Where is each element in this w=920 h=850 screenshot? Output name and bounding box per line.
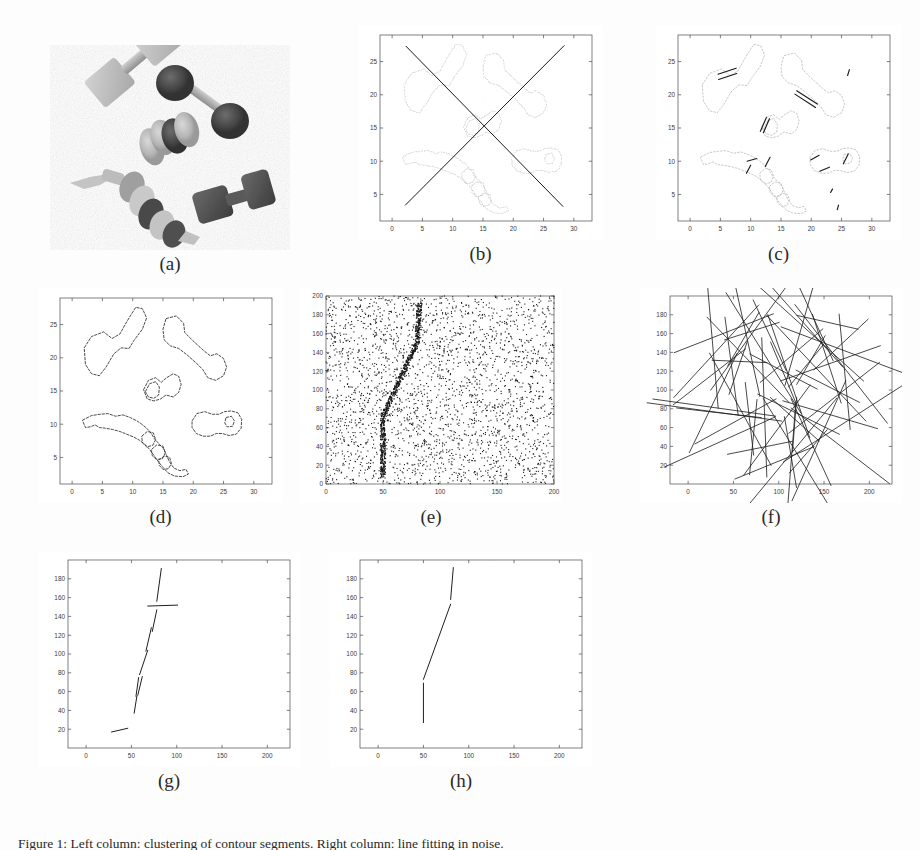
- svg-text:0: 0: [319, 480, 323, 487]
- svg-text:20: 20: [316, 462, 324, 469]
- svg-text:100: 100: [435, 488, 446, 495]
- svg-text:50: 50: [420, 752, 428, 759]
- svg-text:100: 100: [171, 752, 182, 759]
- sublabel-g: (g): [38, 770, 300, 792]
- svg-text:150: 150: [509, 752, 520, 759]
- sublabel-c: (c): [656, 243, 901, 265]
- panel-e-axes: 050100150200020406080100120140160180200: [300, 288, 562, 503]
- svg-text:180: 180: [346, 575, 357, 582]
- svg-text:0: 0: [376, 752, 380, 759]
- svg-text:15: 15: [668, 124, 676, 131]
- svg-text:100: 100: [54, 650, 65, 657]
- svg-text:200: 200: [864, 488, 875, 495]
- panel-c-axes: 051015202530510152025: [656, 25, 901, 240]
- svg-text:100: 100: [463, 752, 474, 759]
- svg-text:120: 120: [54, 632, 65, 639]
- panel-h-axes: 05010015020020406080100120140160180: [330, 552, 592, 767]
- panel-h: Iteration 19, after split & EM 050100150…: [330, 552, 592, 767]
- svg-text:30: 30: [868, 225, 876, 232]
- svg-text:60: 60: [350, 688, 358, 695]
- svg-text:10: 10: [50, 421, 58, 428]
- panel-a-image: [50, 45, 290, 250]
- svg-text:140: 140: [54, 613, 65, 620]
- sublabel-e: (e): [300, 506, 562, 528]
- svg-text:15: 15: [777, 225, 785, 232]
- svg-text:25: 25: [540, 225, 548, 232]
- panel-a: (a): [50, 45, 290, 250]
- sublabel-h: (h): [330, 770, 592, 792]
- panel-d-plot: 051015202530510152025: [38, 288, 283, 503]
- panel-c: Iteration 2, after (merge) & EM 05101520…: [656, 25, 901, 240]
- svg-text:160: 160: [312, 330, 323, 337]
- svg-text:150: 150: [217, 752, 228, 759]
- panel-b-plot: 051015202530510152025: [358, 25, 603, 240]
- figure-caption: Figure 1: Left column: clustering of con…: [18, 836, 908, 850]
- panel-e: 050100150200020406080100120140160180200 …: [300, 288, 562, 503]
- sublabel-f: (f): [640, 506, 902, 528]
- svg-text:15: 15: [50, 387, 58, 394]
- svg-text:0: 0: [688, 225, 692, 232]
- svg-text:200: 200: [262, 752, 273, 759]
- svg-text:25: 25: [50, 321, 58, 328]
- panel-d-axes: 051015202530510152025: [38, 288, 283, 503]
- svg-text:120: 120: [656, 368, 667, 375]
- svg-text:15: 15: [370, 124, 378, 131]
- svg-text:140: 140: [346, 613, 357, 620]
- svg-text:15: 15: [159, 488, 167, 495]
- svg-text:80: 80: [350, 669, 358, 676]
- svg-text:0: 0: [390, 225, 394, 232]
- svg-text:25: 25: [668, 58, 676, 65]
- svg-text:5: 5: [373, 191, 377, 198]
- svg-text:20: 20: [660, 462, 668, 469]
- svg-text:80: 80: [58, 669, 66, 676]
- svg-text:100: 100: [656, 386, 667, 393]
- svg-text:160: 160: [54, 594, 65, 601]
- svg-text:100: 100: [346, 650, 357, 657]
- svg-text:10: 10: [668, 158, 676, 165]
- svg-text:180: 180: [656, 311, 667, 318]
- panel-g-plot: 05010015020020406080100120140160180: [38, 552, 300, 767]
- svg-text:140: 140: [312, 349, 323, 356]
- sublabel-b: (b): [358, 243, 603, 265]
- panel-f-axes: 05010015020020406080100120140160180: [640, 288, 902, 503]
- svg-text:0: 0: [324, 488, 328, 495]
- svg-text:5: 5: [101, 488, 105, 495]
- panel-c-plot: 051015202530510152025: [656, 25, 901, 240]
- svg-text:60: 60: [316, 424, 324, 431]
- panel-b: Iteration 1, after (merge) & EM 05101520…: [358, 25, 603, 240]
- svg-text:160: 160: [656, 330, 667, 337]
- sublabel-d: (d): [38, 506, 283, 528]
- svg-text:10: 10: [370, 158, 378, 165]
- panel-b-axes: 051015202530510152025: [358, 25, 603, 240]
- svg-text:60: 60: [660, 424, 668, 431]
- panel-e-plot: 050100150200020406080100120140160180200: [300, 288, 562, 503]
- svg-text:180: 180: [54, 575, 65, 582]
- svg-text:15: 15: [479, 225, 487, 232]
- panel-g-axes: 05010015020020406080100120140160180: [38, 552, 300, 767]
- svg-text:160: 160: [346, 594, 357, 601]
- svg-text:20: 20: [370, 91, 378, 98]
- svg-text:100: 100: [773, 488, 784, 495]
- panel-f-plot: 05010015020020406080100120140160180: [640, 288, 902, 503]
- svg-text:50: 50: [730, 488, 738, 495]
- svg-text:30: 30: [570, 225, 578, 232]
- svg-text:120: 120: [312, 368, 323, 375]
- sublabel-a: (a): [50, 253, 290, 275]
- svg-text:20: 20: [50, 354, 58, 361]
- svg-text:25: 25: [838, 225, 846, 232]
- svg-text:20: 20: [190, 488, 198, 495]
- svg-text:120: 120: [346, 632, 357, 639]
- svg-text:180: 180: [312, 311, 323, 318]
- svg-text:0: 0: [686, 488, 690, 495]
- panel-g: Iteration 4, after split & EM 0501001502…: [38, 552, 300, 767]
- svg-text:20: 20: [808, 225, 816, 232]
- svg-text:10: 10: [449, 225, 457, 232]
- svg-text:40: 40: [660, 443, 668, 450]
- figure-page: (a) Iteration 1, after (merge) & EM 0510…: [0, 0, 920, 850]
- svg-text:20: 20: [668, 91, 676, 98]
- panel-d: Iteration 27, after split, before EM 051…: [38, 288, 283, 503]
- panel-h-plot: 05010015020020406080100120140160180: [330, 552, 592, 767]
- svg-text:20: 20: [350, 726, 358, 733]
- svg-text:200: 200: [549, 488, 560, 495]
- svg-text:10: 10: [129, 488, 137, 495]
